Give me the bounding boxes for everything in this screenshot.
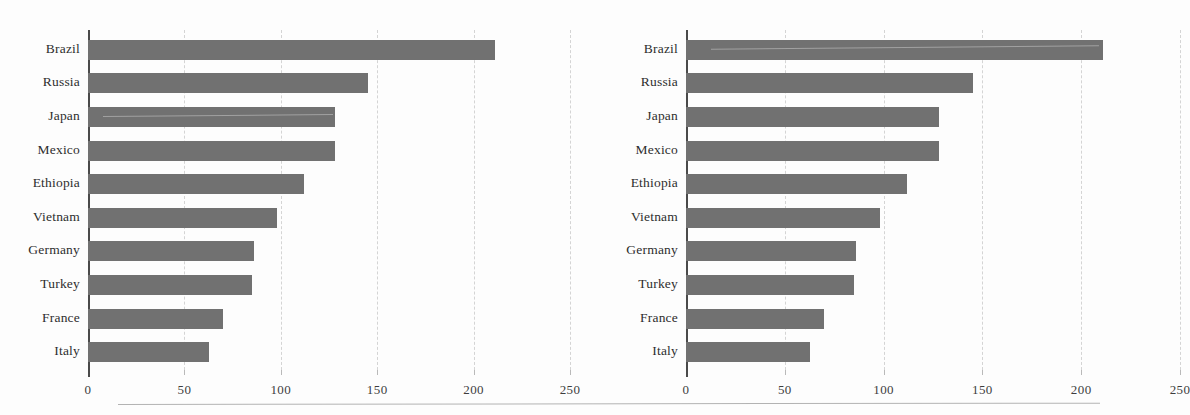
- gridline-x-250: [1180, 30, 1182, 370]
- y-axis-label-ethiopia: Ethiopia: [33, 175, 80, 191]
- bar-row: [686, 174, 1180, 194]
- y-axis-label-vietnam: Vietnam: [33, 209, 80, 225]
- bar-italy[interactable]: [686, 342, 810, 362]
- y-axis-label-brazil: Brazil: [46, 41, 80, 57]
- plot-area-right: 050100150200250BrazilRussiaJapanMexicoEt…: [686, 33, 1180, 369]
- bar-row: [88, 241, 570, 261]
- y-axis-label-russia: Russia: [43, 74, 80, 90]
- bar-row: [686, 241, 1180, 261]
- bar-row: [88, 73, 570, 93]
- x-tick-mark-250: [1180, 370, 1181, 375]
- x-tick-mark-50: [184, 370, 185, 375]
- y-axis-label-germany: Germany: [28, 242, 80, 258]
- y-axis-label-japan: Japan: [646, 108, 678, 124]
- bar-row: [88, 275, 570, 295]
- x-tick-mark-0: [88, 370, 90, 377]
- x-tick-label-50: 50: [778, 382, 792, 398]
- x-tick-mark-200: [1081, 370, 1082, 375]
- x-tick-label-150: 150: [972, 382, 993, 398]
- bar-row: [686, 141, 1180, 161]
- bar-turkey[interactable]: [686, 275, 854, 295]
- x-tick-mark-100: [281, 370, 282, 375]
- bar-row: [88, 174, 570, 194]
- y-axis-label-turkey: Turkey: [638, 276, 678, 292]
- bar-germany[interactable]: [686, 241, 856, 261]
- bar-germany[interactable]: [88, 241, 254, 261]
- plot-area-left: 050100150200250BrazilRussiaJapanMexicoEt…: [88, 33, 570, 369]
- gridline-x-250: [570, 30, 572, 370]
- x-tick-mark-0: [686, 370, 688, 377]
- bar-brazil[interactable]: [88, 40, 495, 60]
- chart-panel-left: 050100150200250BrazilRussiaJapanMexicoEt…: [0, 0, 600, 415]
- y-axis-label-italy: Italy: [54, 343, 80, 359]
- x-tick-mark-100: [884, 370, 885, 375]
- x-tick-label-250: 250: [1170, 382, 1190, 398]
- x-tick-mark-150: [377, 370, 378, 375]
- y-axis-label-turkey: Turkey: [40, 276, 80, 292]
- bar-vietnam[interactable]: [686, 208, 880, 228]
- bar-turkey[interactable]: [88, 275, 252, 295]
- bar-row: [88, 342, 570, 362]
- bar-mexico[interactable]: [686, 141, 939, 161]
- x-tick-label-0: 0: [683, 382, 690, 398]
- bar-japan[interactable]: [88, 107, 335, 127]
- bar-row: [686, 73, 1180, 93]
- y-axis-label-france: France: [42, 310, 80, 326]
- bar-japan[interactable]: [686, 107, 939, 127]
- bar-france[interactable]: [686, 309, 824, 329]
- x-tick-mark-150: [982, 370, 983, 375]
- bar-ethiopia[interactable]: [88, 174, 304, 194]
- y-axis-label-japan: Japan: [48, 108, 80, 124]
- x-tick-label-50: 50: [177, 382, 191, 398]
- x-tick-label-100: 100: [270, 382, 291, 398]
- bar-italy[interactable]: [88, 342, 209, 362]
- bar-brazil[interactable]: [686, 40, 1103, 60]
- bar-row: [88, 141, 570, 161]
- bar-row: [88, 309, 570, 329]
- x-tick-mark-200: [474, 370, 475, 375]
- bar-ethiopia[interactable]: [686, 174, 907, 194]
- x-tick-label-0: 0: [85, 382, 92, 398]
- y-axis-label-italy: Italy: [652, 343, 678, 359]
- bar-row: [686, 40, 1180, 60]
- y-axis-label-russia: Russia: [641, 74, 678, 90]
- x-tick-label-200: 200: [463, 382, 484, 398]
- bar-mexico[interactable]: [88, 141, 335, 161]
- chart-panel-right: 050100150200250BrazilRussiaJapanMexicoEt…: [598, 0, 1190, 415]
- bar-row: [88, 107, 570, 127]
- bar-russia[interactable]: [686, 73, 973, 93]
- y-axis-label-vietnam: Vietnam: [631, 209, 678, 225]
- bar-row: [686, 342, 1180, 362]
- bar-vietnam[interactable]: [88, 208, 277, 228]
- bar-row: [88, 208, 570, 228]
- y-axis-label-mexico: Mexico: [38, 142, 80, 158]
- bar-row: [686, 275, 1180, 295]
- bar-france[interactable]: [88, 309, 223, 329]
- x-tick-mark-250: [570, 370, 571, 375]
- y-axis-label-mexico: Mexico: [636, 142, 678, 158]
- y-axis-label-brazil: Brazil: [644, 41, 678, 57]
- y-axis-label-germany: Germany: [626, 242, 678, 258]
- x-tick-label-200: 200: [1071, 382, 1092, 398]
- x-tick-label-150: 150: [367, 382, 388, 398]
- bar-row: [686, 309, 1180, 329]
- bar-row: [686, 208, 1180, 228]
- x-tick-label-250: 250: [560, 382, 581, 398]
- y-axis-label-france: France: [640, 310, 678, 326]
- x-tick-mark-50: [785, 370, 786, 375]
- x-tick-label-100: 100: [873, 382, 894, 398]
- y-axis-label-ethiopia: Ethiopia: [631, 175, 678, 191]
- figure-canvas: 050100150200250BrazilRussiaJapanMexicoEt…: [0, 0, 1190, 415]
- bar-russia[interactable]: [88, 73, 368, 93]
- bar-row: [88, 40, 570, 60]
- bar-row: [686, 107, 1180, 127]
